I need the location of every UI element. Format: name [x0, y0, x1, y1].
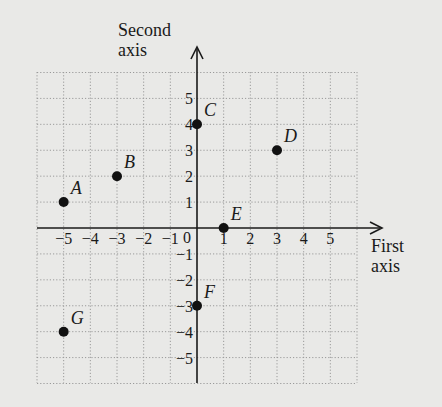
first-axis-title-line2: axis: [371, 256, 400, 276]
point-label: G: [71, 308, 84, 328]
x-tick-label: 2: [246, 230, 254, 247]
point-marker-icon: [219, 223, 229, 233]
point-label: B: [124, 152, 135, 172]
point-g: G: [59, 308, 84, 337]
x-tick-label: −5: [55, 230, 72, 247]
point-c: C: [192, 100, 217, 129]
point-a: A: [59, 178, 83, 207]
point-b: B: [112, 152, 135, 181]
x-tick-label: −3: [108, 230, 125, 247]
point-marker-icon: [59, 197, 69, 207]
point-f: F: [192, 282, 216, 311]
second-axis-title-line1: Second: [118, 20, 171, 40]
x-tick-label: −2: [135, 230, 152, 247]
point-label: D: [283, 126, 297, 146]
point-label: E: [230, 204, 242, 224]
axes: [37, 47, 382, 383]
y-tick-label: 5: [185, 90, 193, 107]
x-tick-label: 5: [326, 230, 334, 247]
point-marker-icon: [112, 171, 122, 181]
y-tick-label: 1: [185, 194, 193, 211]
second-axis-title-line2: axis: [118, 40, 147, 60]
y-tick-label: 3: [185, 142, 193, 159]
y-tick-label: −1: [176, 246, 193, 263]
point-label: A: [70, 178, 83, 198]
y-tick-label: −3: [176, 298, 193, 315]
point-marker-icon: [192, 301, 202, 311]
y-tick-label: −4: [176, 324, 193, 341]
y-tick-label: −2: [176, 272, 193, 289]
coordinate-plane: −5−4−3−2−11234554321−1−2−3−4−5 0 Second …: [0, 0, 442, 407]
x-tick-label: 4: [300, 230, 308, 247]
x-tick-label: 3: [273, 230, 281, 247]
y-tick-label: 2: [185, 168, 193, 185]
x-tick-label: −4: [82, 230, 99, 247]
y-tick-label: −5: [176, 350, 193, 367]
point-marker-icon: [272, 145, 282, 155]
point-marker-icon: [192, 119, 202, 129]
point-label: C: [204, 100, 217, 120]
origin-label: 0: [183, 229, 191, 246]
x-tick-label: −1: [162, 230, 179, 247]
point-marker-icon: [59, 327, 69, 337]
point-label: F: [203, 282, 216, 302]
y-tick-label: 4: [185, 116, 193, 133]
point-d: D: [272, 126, 297, 155]
first-axis-title-line1: First: [371, 236, 404, 256]
